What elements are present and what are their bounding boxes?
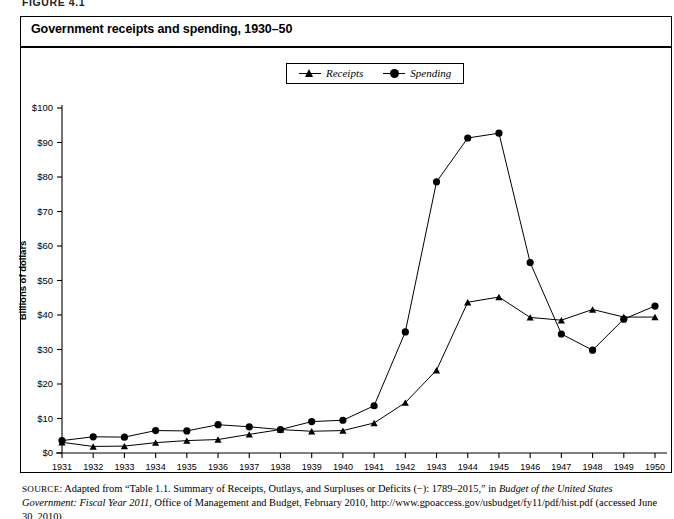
figure-container: FIGURE 4.1 Government receipts and spend… (0, 0, 674, 519)
y-tick-label: $80 (37, 171, 53, 182)
data-point (58, 437, 65, 444)
x-tick-label: 1937 (239, 462, 259, 472)
y-tick-label: $0 (42, 447, 53, 458)
series-layer (58, 130, 658, 450)
data-point (464, 134, 471, 141)
x-tick-label: 1949 (614, 462, 634, 472)
x-tick-label: 1942 (395, 462, 415, 472)
data-point (558, 330, 565, 337)
x-tick-label: 1946 (520, 462, 540, 472)
data-point (371, 402, 378, 409)
x-tick-label: 1944 (458, 462, 478, 472)
y-tick-label: $60 (37, 240, 53, 251)
x-tick-label: 1931 (52, 462, 72, 472)
y-tick-label: $10 (37, 413, 53, 424)
y-tick-label: $30 (37, 344, 53, 355)
data-point (339, 417, 346, 424)
data-point (277, 426, 284, 433)
x-tick-label: 1933 (114, 462, 134, 472)
series-spending (58, 130, 658, 445)
x-tick-label: 1943 (427, 462, 447, 472)
x-tick-label: 1945 (489, 462, 509, 472)
x-tick-label: 1948 (583, 462, 603, 472)
data-point (589, 306, 596, 312)
data-point (246, 423, 253, 430)
data-point (527, 259, 534, 266)
data-point (402, 328, 409, 335)
chart-svg: $0$10$20$30$40$50$60$70$80$90$100Billion… (0, 0, 674, 480)
x-tick-label: 1939 (302, 462, 322, 472)
x-tick-label: 1950 (645, 462, 665, 472)
data-point (152, 427, 159, 434)
x-tick-label: 1941 (364, 462, 384, 472)
y-tick-label: $90 (37, 137, 53, 148)
data-point (495, 130, 502, 137)
data-point (620, 316, 627, 323)
source-prefix: SOURCE (22, 484, 59, 494)
y-tick-label: $70 (37, 206, 53, 217)
source-note: SOURCE: Adapted from “Table 1.1. Summary… (22, 482, 666, 519)
x-tick-label: 1932 (83, 462, 103, 472)
y-axis-title: Billions of dollars (17, 241, 28, 321)
x-tick-label: 1936 (208, 462, 228, 472)
data-point (433, 367, 440, 373)
data-point (90, 433, 97, 440)
data-point (651, 302, 658, 309)
data-point (589, 347, 596, 354)
source-text-1: : Adapted from “Table 1.1. Summary of Re… (59, 483, 498, 494)
plot-area: $0$10$20$30$40$50$60$70$80$90$100Billion… (0, 0, 674, 480)
axis-layer: $0$10$20$30$40$50$60$70$80$90$100Billion… (17, 102, 667, 471)
y-tick-label: $50 (37, 275, 53, 286)
y-tick-label: $20 (37, 378, 53, 389)
data-point (214, 421, 221, 428)
y-tick-label: $40 (37, 309, 53, 320)
data-point (308, 418, 315, 425)
x-tick-label: 1935 (177, 462, 197, 472)
x-tick-label: 1934 (146, 462, 166, 472)
y-tick-label: $100 (32, 102, 53, 113)
series-line (62, 133, 655, 440)
x-tick-label: 1938 (270, 462, 290, 472)
series-line (62, 297, 655, 446)
data-point (183, 427, 190, 434)
series-receipts (58, 294, 658, 450)
x-tick-label: 1940 (333, 462, 353, 472)
data-point (121, 434, 128, 441)
x-tick-label: 1947 (551, 462, 571, 472)
data-point (433, 178, 440, 185)
